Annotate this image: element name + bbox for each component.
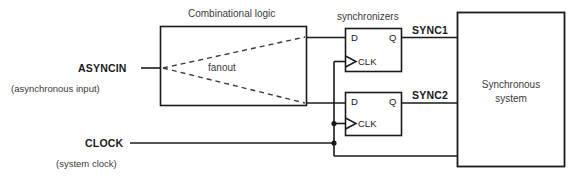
synchronous-system-label-line1: Synchronous: [457, 80, 565, 90]
asyncin-note-label: (asynchronous input): [11, 84, 100, 94]
ff1-q-pin-label: Q: [389, 33, 396, 43]
ff2-q-pin-label: Q: [389, 97, 396, 107]
fanout-dashed-lower: [163, 68, 305, 103]
asyncin-label: ASYNCIN: [78, 63, 127, 74]
clock-note-label: (system clock): [56, 159, 117, 169]
ff2-clk-pin-label: CLK: [358, 119, 376, 129]
sync1-signal-label: SYNC1: [412, 25, 448, 36]
ff1-d-pin-label: D: [351, 33, 358, 43]
ff1-clk-pin-label: CLK: [358, 57, 376, 67]
synchronizer-diagram: Combinational logic fanout synchronizers…: [0, 0, 588, 183]
synchronous-system-label-line2: system: [457, 94, 565, 104]
sync2-signal-label: SYNC2: [412, 90, 448, 101]
clock-label: CLOCK: [85, 138, 123, 149]
combinational-logic-label: Combinational logic: [188, 9, 275, 19]
clock-junction-dot-trunk: [331, 140, 336, 145]
fanout-label: fanout: [208, 63, 236, 73]
synchronizer-ff-1-clk-triangle: [346, 56, 357, 67]
clock-junction-dot-ff2: [331, 121, 336, 126]
synchronizers-label: synchronizers: [337, 12, 399, 22]
ff2-d-pin-label: D: [351, 97, 358, 107]
synchronizer-ff-2-clk-triangle: [346, 118, 357, 129]
